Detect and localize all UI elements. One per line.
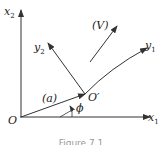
vector-a-label: (a): [42, 93, 57, 104]
y1-axis-label: y1: [145, 40, 156, 54]
x2-axis-label: x2: [4, 6, 15, 20]
y2-axis: [48, 43, 85, 94]
angle-arc: [70, 106, 72, 117]
origin-prime-label: O′: [88, 92, 100, 103]
angle-phi-label: ϕ: [76, 103, 84, 114]
vector-v-label: (V): [92, 20, 109, 31]
y1-axis: [85, 48, 147, 94]
figure-caption: Figure 7.1: [0, 138, 162, 145]
x1-axis-label: x1: [148, 112, 159, 126]
coordinate-diagram: [0, 0, 162, 145]
angle-guide: [60, 110, 72, 117]
y2-axis-label: y2: [34, 42, 45, 56]
origin-label: O: [8, 115, 17, 126]
